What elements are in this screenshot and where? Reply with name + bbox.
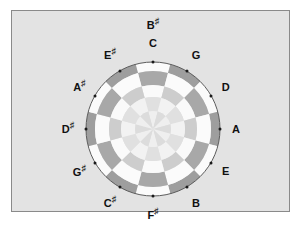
note-dot-Fs[interactable]	[152, 195, 155, 198]
note-dot-A[interactable]	[219, 128, 222, 131]
note-dot-G[interactable]	[185, 69, 188, 72]
note-labels-layer: CGDAEBF♯C♯G♯D♯A♯E♯B♯	[12, 11, 291, 213]
note-label-G[interactable]: G	[192, 49, 201, 60]
note-label-Es[interactable]: E♯	[104, 49, 116, 60]
note-dot-B[interactable]	[185, 186, 188, 189]
note-dot-Ds[interactable]	[85, 128, 88, 131]
note-label-C[interactable]: C	[149, 38, 157, 49]
note-label-Bs[interactable]: B♯	[147, 20, 159, 31]
note-label-Fs[interactable]: F♯	[147, 210, 158, 221]
note-dot-E[interactable]	[210, 161, 213, 164]
circle-of-fifths-wheel: CGDAEBF♯C♯G♯D♯A♯E♯B♯	[12, 11, 291, 213]
note-dot-D[interactable]	[210, 94, 213, 97]
note-dot-C[interactable]	[152, 61, 155, 64]
note-label-Ds[interactable]: D♯	[62, 124, 74, 135]
note-label-B[interactable]: B	[192, 198, 200, 209]
note-label-Cs[interactable]: C♯	[104, 198, 116, 209]
note-dot-Es[interactable]	[118, 69, 121, 72]
note-label-A[interactable]: A	[232, 124, 240, 135]
note-dot-Gs[interactable]	[93, 161, 96, 164]
note-label-Gs[interactable]: G♯	[73, 166, 86, 177]
note-label-D[interactable]: D	[222, 82, 230, 93]
figure-panel: CGDAEBF♯C♯G♯D♯A♯E♯B♯	[11, 10, 290, 212]
note-dot-Cs[interactable]	[118, 186, 121, 189]
note-dot-As[interactable]	[93, 94, 96, 97]
note-label-As[interactable]: A♯	[73, 81, 85, 92]
note-label-E[interactable]: E	[222, 166, 229, 177]
